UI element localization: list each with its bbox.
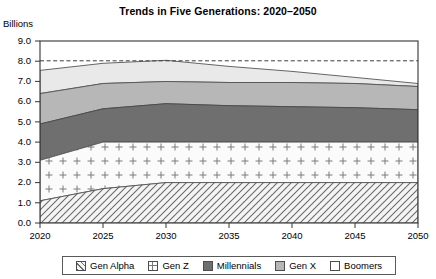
legend-item-gen-alpha[interactable]: Gen Alpha (76, 260, 134, 271)
x-tick-label-2025: 2025 (83, 230, 123, 241)
y-axis-ticks (35, 41, 40, 223)
x-tick-label-2040: 2040 (272, 230, 312, 241)
legend-label-gen-x: Gen X (289, 260, 316, 271)
y-tick-label-8: 8.0 (5, 55, 31, 66)
y-tick-label-2: 2.0 (5, 176, 31, 187)
y-tick-label-7: 7.0 (5, 75, 31, 86)
x-tick-label-2030: 2030 (146, 230, 186, 241)
x-tick-label-2020: 2020 (20, 230, 60, 241)
legend-item-gen-z[interactable]: Gen Z (148, 260, 188, 271)
y-tick-label-1: 1.0 (5, 197, 31, 208)
legend-label-millennials: Millennials (217, 260, 261, 271)
chart-legend: Gen Alpha Gen Z Millennials Gen X Boomer… (62, 256, 396, 275)
y-tick-label-4: 4.0 (5, 136, 31, 147)
legend-item-millennials[interactable]: Millennials (203, 260, 261, 271)
legend-swatch-gen-z-icon (148, 261, 158, 271)
legend-swatch-boomers-icon (330, 261, 340, 271)
y-tick-label-6: 6.0 (5, 95, 31, 106)
legend-swatch-gen-alpha-icon (76, 261, 86, 271)
x-tick-label-2035: 2035 (209, 230, 249, 241)
legend-swatch-millennials-icon (203, 261, 213, 271)
legend-label-boomers: Boomers (344, 260, 382, 271)
legend-label-gen-alpha: Gen Alpha (90, 260, 134, 271)
y-tick-label-5: 5.0 (5, 116, 31, 127)
legend-item-gen-x[interactable]: Gen X (275, 260, 316, 271)
y-tick-label-0: 0.0 (5, 217, 31, 228)
stacked-areas (40, 60, 418, 223)
x-tick-label-2050: 2050 (398, 230, 436, 241)
x-axis-ticks (40, 223, 418, 228)
x-tick-label-2045: 2045 (335, 230, 375, 241)
y-tick-label-9: 9.0 (5, 35, 31, 46)
chart-container: Trends in Five Generations: 2020–2050 Bi… (0, 0, 436, 279)
legend-item-boomers[interactable]: Boomers (330, 260, 382, 271)
legend-label-gen-z: Gen Z (162, 260, 188, 271)
legend-swatch-gen-x-icon (275, 261, 285, 271)
y-tick-label-3: 3.0 (5, 156, 31, 167)
